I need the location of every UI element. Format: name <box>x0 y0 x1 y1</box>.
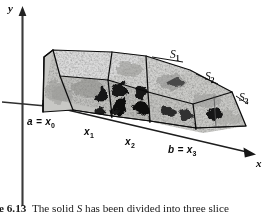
y-axis-label: y <box>8 3 13 14</box>
partition-label-a-x0-sub: 0 <box>51 122 55 129</box>
partition-label-x1: x1 <box>84 127 94 139</box>
dark-blotch-end-slice <box>205 108 223 120</box>
slice-label-s2-sub: 2 <box>211 76 215 85</box>
partition-label-b-x3-lead: b = x <box>168 144 193 155</box>
x-axis-label: x <box>256 158 262 169</box>
slice-label-s1-sub: 1 <box>176 54 180 63</box>
partition-label-a-x0-lead: a = x <box>27 116 51 127</box>
slice-label-s1: S1 <box>170 49 180 63</box>
z-axis-line <box>2 102 46 106</box>
partition-label-b-x3-sub: 3 <box>193 150 197 157</box>
caption-solid-symbol: S <box>77 202 83 214</box>
figure-6-13: y x S1 S2 S3 a = x0 x1 x2 b = x3 ure 6.1… <box>0 0 269 220</box>
slice-label-s2: S2 <box>205 71 215 85</box>
partition-label-x2-sub: 2 <box>131 142 135 149</box>
caption-figure-number: 6.13 <box>7 202 27 214</box>
slice-label-s3: S3 <box>239 92 249 106</box>
slice-label-s3-sub: 3 <box>245 97 249 106</box>
solid-S <box>40 44 252 140</box>
figure-caption: ure 6.13 The solid S has been divided in… <box>0 200 269 220</box>
caption-text-1: The solid <box>32 202 74 214</box>
solid-diagram <box>0 0 269 220</box>
x-axis-arrowhead <box>244 148 257 158</box>
partition-label-b-x3: b = x3 <box>168 145 197 157</box>
partition-label-a-x0: a = x0 <box>27 117 55 129</box>
partition-label-x1-sub: 1 <box>90 132 94 139</box>
y-axis-arrowhead <box>19 6 27 16</box>
caption-text-2: has been divided into three slice <box>85 202 229 214</box>
partition-label-x2: x2 <box>125 137 135 149</box>
